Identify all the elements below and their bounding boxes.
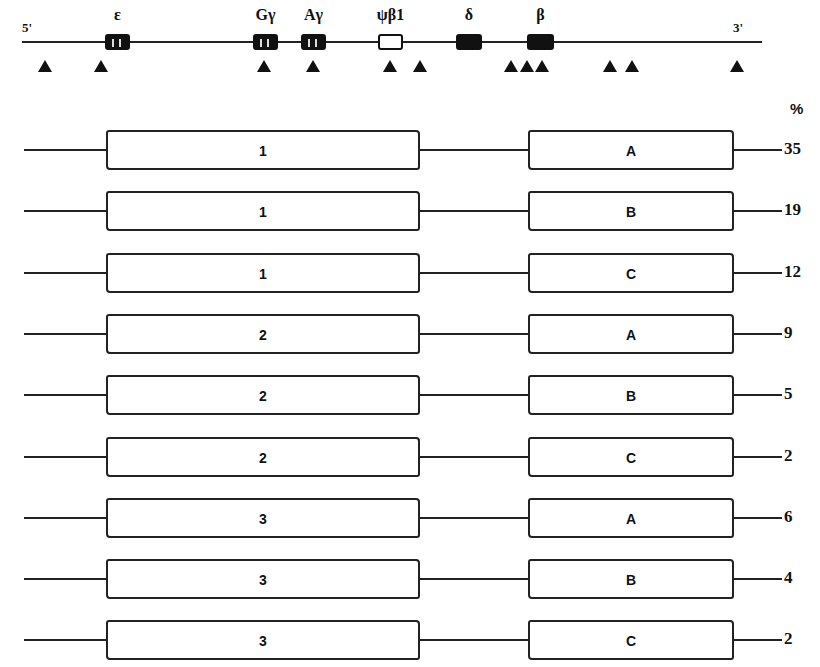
five-prime-label: 5' bbox=[22, 20, 32, 36]
frequency-percent: 4 bbox=[784, 568, 793, 588]
flanking-line bbox=[24, 149, 106, 151]
intron-stripe bbox=[112, 39, 114, 47]
frequency-percent: 35 bbox=[784, 139, 801, 159]
flanking-line bbox=[734, 639, 782, 641]
flanking-line bbox=[734, 210, 782, 212]
three-prime-haplotype-box: A bbox=[528, 498, 734, 538]
three-prime-haplotype-label: A bbox=[530, 511, 732, 527]
connector-line bbox=[420, 394, 528, 396]
haplotype-row: 3C2 bbox=[0, 620, 820, 660]
flanking-line bbox=[734, 394, 782, 396]
three-prime-haplotype-label: C bbox=[530, 450, 732, 466]
three-prime-haplotype-label: A bbox=[530, 143, 732, 159]
five-prime-haplotype-label: 1 bbox=[108, 266, 418, 282]
three-prime-haplotype-box: A bbox=[528, 130, 734, 170]
flanking-line bbox=[24, 333, 106, 335]
restriction-site-triangle-icon bbox=[383, 60, 397, 72]
five-prime-haplotype-label: 3 bbox=[108, 511, 418, 527]
flanking-line bbox=[734, 517, 782, 519]
haplotype-row: 2A9 bbox=[0, 314, 820, 354]
five-prime-haplotype-box: 2 bbox=[106, 437, 420, 477]
haplotype-row: 2B5 bbox=[0, 375, 820, 415]
three-prime-haplotype-label: B bbox=[530, 572, 732, 588]
flanking-line bbox=[24, 456, 106, 458]
flanking-line bbox=[24, 394, 106, 396]
three-prime-haplotype-label: A bbox=[530, 327, 732, 343]
three-prime-haplotype-box: A bbox=[528, 314, 734, 354]
gene-box-icon bbox=[378, 34, 403, 50]
frequency-percent: 2 bbox=[784, 446, 793, 466]
gene-label: δ bbox=[465, 6, 473, 24]
connector-line bbox=[420, 210, 528, 212]
three-prime-haplotype-label: B bbox=[530, 388, 732, 404]
frequency-percent: 9 bbox=[784, 323, 793, 343]
gene-label: ε bbox=[114, 6, 121, 24]
connector-line bbox=[420, 578, 528, 580]
five-prime-haplotype-label: 2 bbox=[108, 388, 418, 404]
frequency-percent: 19 bbox=[784, 200, 801, 220]
three-prime-haplotype-label: C bbox=[530, 633, 732, 649]
flanking-line bbox=[734, 149, 782, 151]
haplotype-row: 1B19 bbox=[0, 191, 820, 231]
frequency-percent: 6 bbox=[784, 507, 793, 527]
three-prime-haplotype-box: C bbox=[528, 437, 734, 477]
gene-box-icon bbox=[105, 34, 130, 50]
five-prime-haplotype-label: 2 bbox=[108, 450, 418, 466]
five-prime-haplotype-box: 3 bbox=[106, 498, 420, 538]
restriction-site-triangle-icon bbox=[413, 60, 427, 72]
five-prime-haplotype-box: 1 bbox=[106, 130, 420, 170]
restriction-site-triangle-icon bbox=[520, 60, 534, 72]
gene-label: ψβ1 bbox=[377, 6, 404, 24]
gene-box-icon bbox=[456, 34, 482, 50]
gene-box-icon bbox=[527, 34, 554, 50]
haplotype-row: 3A6 bbox=[0, 498, 820, 538]
three-prime-haplotype-box: C bbox=[528, 620, 734, 660]
haplotype-row: 1A35 bbox=[0, 130, 820, 170]
connector-line bbox=[420, 333, 528, 335]
gene-box-icon bbox=[253, 34, 278, 50]
intron-stripe bbox=[308, 39, 310, 47]
five-prime-haplotype-box: 1 bbox=[106, 191, 420, 231]
frequency-percent: 5 bbox=[784, 384, 793, 404]
intron-stripe bbox=[119, 39, 121, 47]
connector-line bbox=[420, 149, 528, 151]
five-prime-haplotype-box: 2 bbox=[106, 375, 420, 415]
restriction-site-triangle-icon bbox=[535, 60, 549, 72]
flanking-line bbox=[24, 578, 106, 580]
gene-label: Aγ bbox=[304, 6, 323, 24]
restriction-site-triangle-icon bbox=[603, 60, 617, 72]
gene-label: Gγ bbox=[256, 6, 276, 24]
flanking-line bbox=[734, 578, 782, 580]
intron-stripe bbox=[260, 39, 262, 47]
three-prime-haplotype-label: C bbox=[530, 266, 732, 282]
restriction-site-triangle-icon bbox=[38, 60, 52, 72]
flanking-line bbox=[24, 272, 106, 274]
five-prime-haplotype-label: 3 bbox=[108, 572, 418, 588]
connector-line bbox=[420, 639, 528, 641]
haplotype-row: 3B4 bbox=[0, 559, 820, 599]
percent-column-header: % bbox=[790, 100, 803, 117]
three-prime-label: 3' bbox=[733, 20, 743, 36]
five-prime-haplotype-label: 1 bbox=[108, 204, 418, 220]
five-prime-haplotype-label: 3 bbox=[108, 633, 418, 649]
flanking-line bbox=[734, 333, 782, 335]
connector-line bbox=[420, 456, 528, 458]
connector-line bbox=[420, 517, 528, 519]
five-prime-haplotype-box: 1 bbox=[106, 253, 420, 293]
flanking-line bbox=[24, 639, 106, 641]
five-prime-haplotype-box: 3 bbox=[106, 559, 420, 599]
restriction-site-triangle-icon bbox=[94, 60, 108, 72]
gene-box-icon bbox=[301, 34, 326, 50]
three-prime-haplotype-box: C bbox=[528, 253, 734, 293]
intron-stripe bbox=[267, 39, 269, 47]
restriction-site-triangle-icon bbox=[625, 60, 639, 72]
frequency-percent: 12 bbox=[784, 262, 801, 282]
intron-stripe bbox=[315, 39, 317, 47]
restriction-site-triangle-icon bbox=[504, 60, 518, 72]
restriction-site-triangle-icon bbox=[730, 60, 744, 72]
flanking-line bbox=[24, 210, 106, 212]
five-prime-haplotype-box: 2 bbox=[106, 314, 420, 354]
five-prime-haplotype-label: 2 bbox=[108, 327, 418, 343]
five-prime-haplotype-label: 1 bbox=[108, 143, 418, 159]
five-prime-haplotype-box: 3 bbox=[106, 620, 420, 660]
